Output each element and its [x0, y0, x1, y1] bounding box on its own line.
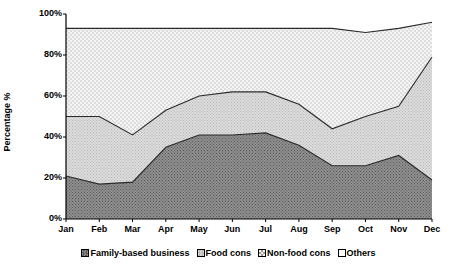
chart-legend: Family-based businessFood consNon-food c… — [0, 245, 457, 261]
legend-label: Family-based business — [90, 249, 189, 258]
white-swatch-icon — [338, 249, 346, 257]
legend-item-family-based-business[interactable]: Family-based business — [81, 249, 189, 258]
legend-label: Others — [347, 249, 376, 258]
legend-label: Non-food cons — [267, 249, 331, 258]
light-checker-swatch-icon — [197, 249, 205, 257]
x-axis-tick-dec: Dec — [412, 223, 452, 236]
stacked-area-chart: Percentage % 0%20%40%60%80%100% — [0, 0, 457, 267]
legend-item-food-cons[interactable]: Food cons — [197, 249, 252, 258]
legend-item-non-food-cons[interactable]: Non-food cons — [258, 249, 331, 258]
dark-hatch-swatch-icon — [81, 249, 89, 257]
legend-item-others[interactable]: Others — [338, 249, 376, 258]
legend-label: Food cons — [206, 249, 252, 258]
x-axis-tick-labels: JanFebMarAprMayJunJulAugSepOctNovDec — [0, 223, 457, 239]
dotted-swatch-icon — [258, 249, 266, 257]
